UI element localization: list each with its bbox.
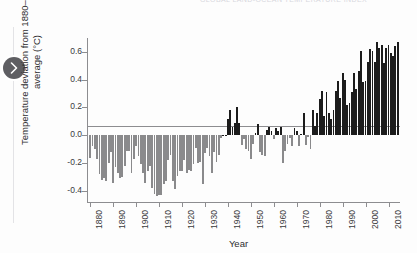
x-axis-tick	[320, 202, 321, 207]
x-axis-tick	[251, 202, 252, 207]
x-axis-tick-label: 1950	[255, 210, 265, 229]
x-axis-tick-label: 1970	[301, 210, 311, 229]
x-axis-tick-label: 1990	[347, 210, 357, 229]
y-axis-tick	[82, 135, 87, 136]
x-axis-tick	[90, 202, 91, 207]
y-axis-tick	[82, 52, 87, 53]
y-axis-labels: 0.60.40.20.0-0.2-0.4	[16, 10, 82, 253]
x-axis-tick	[159, 202, 160, 207]
chart-bar	[218, 135, 220, 154]
x-axis-tick	[136, 202, 137, 207]
x-axis-tick-label: 1880	[94, 210, 104, 229]
screenshot-stage: GLOBAL LAND-OCEAN TEMPERATURE INDEX Temp…	[0, 0, 417, 253]
chart-bar	[252, 135, 254, 143]
x-axis-tick-label: 1930	[209, 210, 219, 229]
chart-bar	[305, 135, 307, 145]
x-axis-tick-label: 1940	[232, 210, 242, 229]
y-axis-tick-label: 0.6	[22, 46, 82, 56]
x-axis-line	[87, 202, 400, 203]
chart-bar	[310, 135, 312, 149]
x-axis-tick	[297, 202, 298, 207]
x-axis-tick-label: 1890	[117, 210, 127, 229]
x-axis-tick-label: 2010	[393, 210, 403, 229]
y-axis-tick-label: 0.0	[22, 129, 82, 139]
chart-bar	[264, 135, 266, 156]
x-axis-tick	[182, 202, 183, 207]
x-axis-tick	[274, 202, 275, 207]
chart-bar	[397, 42, 399, 135]
x-axis-tick	[366, 202, 367, 207]
x-axis-tick-label: 1900	[140, 210, 150, 229]
x-axis-title: Year	[0, 238, 417, 249]
x-axis-tick	[205, 202, 206, 207]
plot-area	[88, 38, 400, 202]
y-axis-tick	[82, 163, 87, 164]
y-axis-tick-label: -0.4	[22, 185, 82, 195]
y-axis-tick-label: 0.2	[22, 101, 82, 111]
x-axis-tick-label: 1920	[186, 210, 196, 229]
x-axis-tick	[343, 202, 344, 207]
y-axis-tick	[82, 107, 87, 108]
chart-bar	[257, 124, 259, 135]
x-axis-tick-label: 1980	[324, 210, 334, 229]
x-axis-tick	[113, 202, 114, 207]
temperature-anomaly-chart: Temperature deviation from 1880–2010 ave…	[0, 10, 417, 253]
x-axis-tick	[228, 202, 229, 207]
x-axis-tick	[389, 202, 390, 207]
chart-bar	[225, 135, 227, 136]
chart-bar	[291, 135, 293, 146]
y-axis-tick	[82, 80, 87, 81]
x-axis-tick-label: 1910	[163, 210, 173, 229]
chart-bar	[298, 135, 300, 146]
cropped-caption-text: GLOBAL LAND-OCEAN TEMPERATURE INDEX	[150, 0, 417, 3]
chart-bar	[303, 113, 305, 135]
x-axis-tick-label: 2000	[370, 210, 380, 229]
y-axis-tick	[82, 191, 87, 192]
y-axis-tick-label: -0.2	[22, 157, 82, 167]
chart-bar	[280, 127, 282, 135]
chart-bar	[273, 135, 275, 139]
x-axis-tick-label: 1960	[278, 210, 288, 229]
y-axis-tick-label: 0.4	[22, 74, 82, 84]
chart-bar	[238, 123, 240, 136]
